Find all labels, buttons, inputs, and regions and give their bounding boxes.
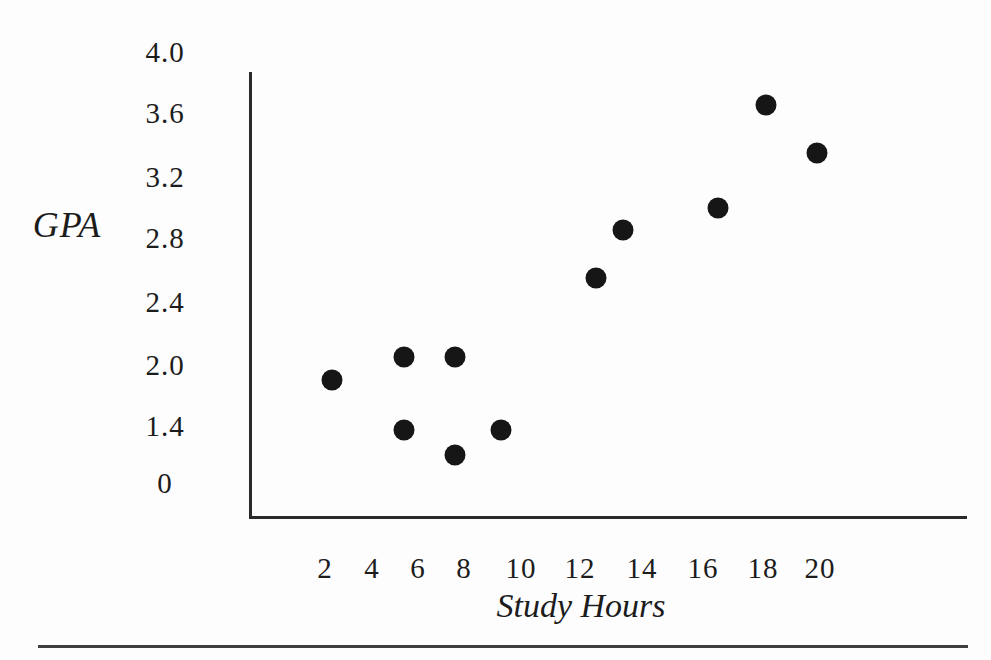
- data-point: [585, 268, 606, 289]
- data-point: [444, 444, 465, 465]
- y-axis-line: [249, 72, 252, 519]
- scatter-plot-figure: GPA 4.03.63.22.82.42.01.40 2468101214161…: [0, 0, 991, 660]
- y-tick-label: 2.0: [145, 349, 184, 382]
- y-tick-label: 1.4: [145, 410, 184, 443]
- x-axis-line: [249, 516, 967, 519]
- x-tick-label: 14: [627, 552, 658, 585]
- x-tick-label: 12: [565, 552, 596, 585]
- data-point: [394, 347, 415, 368]
- y-tick-label: 2.4: [145, 286, 184, 319]
- x-tick-label: 2: [317, 552, 333, 585]
- data-point: [491, 420, 512, 441]
- x-tick-label: 16: [688, 552, 719, 585]
- x-tick-label: 8: [456, 552, 472, 585]
- data-point: [807, 143, 828, 164]
- page-rule-line: [38, 645, 968, 648]
- y-tick-label: 4.0: [145, 36, 184, 69]
- x-tick-label: 20: [805, 552, 836, 585]
- x-tick-label: 4: [364, 552, 380, 585]
- data-point: [322, 370, 343, 391]
- data-point: [444, 347, 465, 368]
- x-tick-label: 18: [748, 552, 779, 585]
- y-axis-title: GPA: [33, 204, 101, 246]
- data-point: [613, 220, 634, 241]
- x-tick-label: 6: [410, 552, 426, 585]
- x-tick-label: 10: [506, 552, 537, 585]
- data-point: [755, 95, 776, 116]
- y-tick-label: 3.2: [145, 161, 184, 194]
- x-axis-title: Study Hours: [496, 587, 665, 625]
- y-tick-label: 2.8: [145, 222, 184, 255]
- y-tick-label: 0: [157, 467, 173, 500]
- data-point: [708, 197, 729, 218]
- y-tick-label: 3.6: [145, 97, 184, 130]
- data-point: [394, 420, 415, 441]
